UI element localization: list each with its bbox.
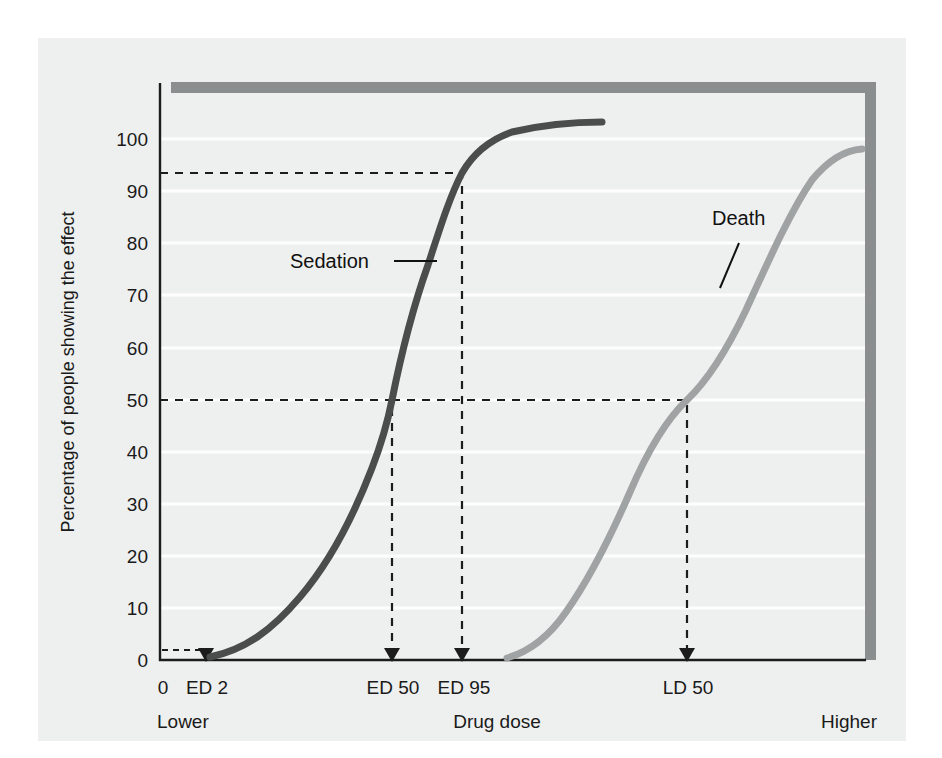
y-tick-80: 80 xyxy=(127,233,148,254)
decor-bar-top xyxy=(171,82,876,93)
x-tick-ed2: ED 2 xyxy=(186,677,228,698)
y-tick-50: 50 xyxy=(127,390,148,411)
y-tick-0: 0 xyxy=(137,650,148,671)
x-axis-higher-label: Higher xyxy=(821,711,878,732)
y-axis-title: Percentage of people showing the effect xyxy=(58,212,78,533)
figure-root: 100 90 80 70 60 50 40 30 20 10 0 Percent… xyxy=(0,0,942,758)
plot-area-background xyxy=(160,83,866,660)
x-tick-origin: 0 xyxy=(158,677,169,698)
y-tick-10: 10 xyxy=(127,598,148,619)
y-tick-90: 90 xyxy=(127,181,148,202)
y-tick-70: 70 xyxy=(127,285,148,306)
x-tick-ed50: ED 50 xyxy=(367,677,420,698)
annotation-sedation: Sedation xyxy=(290,250,369,272)
x-tick-ed95: ED 95 xyxy=(438,677,491,698)
y-tick-labels: 100 90 80 70 60 50 40 30 20 10 0 xyxy=(116,129,148,671)
y-tick-30: 30 xyxy=(127,494,148,515)
annotation-death: Death xyxy=(712,207,765,229)
x-tick-ld50: LD 50 xyxy=(663,677,714,698)
y-tick-20: 20 xyxy=(127,546,148,567)
x-axis-lower-label: Lower xyxy=(157,711,209,732)
y-tick-60: 60 xyxy=(127,338,148,359)
y-tick-100: 100 xyxy=(116,129,148,150)
y-tick-40: 40 xyxy=(127,442,148,463)
x-axis-title: Drug dose xyxy=(453,711,541,732)
decor-bar-right xyxy=(865,82,876,660)
x-tick-labels: 0 ED 2 ED 50 ED 95 LD 50 xyxy=(158,677,714,698)
chart-svg: 100 90 80 70 60 50 40 30 20 10 0 Percent… xyxy=(0,0,942,758)
